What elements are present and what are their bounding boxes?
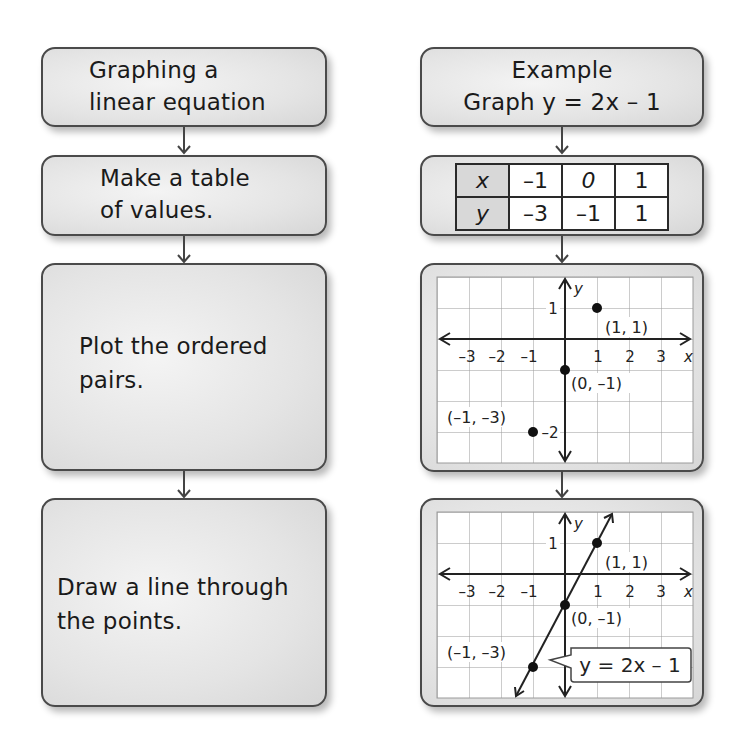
table-row-y: y –3 –1 1 bbox=[456, 197, 668, 230]
table-cell: 0 bbox=[562, 164, 615, 197]
x-tick-neg3: –3 bbox=[458, 348, 475, 366]
x-tick-1: 1 bbox=[593, 348, 603, 366]
step-draw-line2: the points. bbox=[57, 606, 182, 637]
point-1-1 bbox=[592, 303, 602, 313]
step-table-line1: Make a table bbox=[100, 163, 250, 194]
x-tick-2: 2 bbox=[625, 348, 635, 366]
y-axis-label: y bbox=[573, 280, 584, 298]
table-cell: –1 bbox=[509, 164, 562, 197]
x-tick-neg1: –1 bbox=[520, 348, 537, 366]
equation-label: y = 2x – 1 bbox=[579, 653, 680, 677]
arrow-down-icon bbox=[554, 236, 570, 264]
table-cell: 1 bbox=[615, 197, 668, 230]
x-tick-3: 3 bbox=[656, 583, 666, 601]
table-cell: –1 bbox=[562, 197, 615, 230]
arrow-down-icon bbox=[176, 127, 192, 155]
step-box-draw: Draw a line through the points. bbox=[41, 498, 327, 707]
table-row-x: x –1 0 1 bbox=[456, 164, 668, 197]
point-0-neg1 bbox=[560, 365, 570, 375]
coordinate-plane-with-line: 1 2 3 –3 –2 –1 x y 1 (1, 1) (0, –1) (–1,… bbox=[422, 500, 702, 705]
graph-box-line: 1 2 3 –3 –2 –1 x y 1 (1, 1) (0, –1) (–1,… bbox=[420, 498, 704, 707]
y-tick-1: 1 bbox=[548, 535, 558, 553]
y-tick-neg2: –2 bbox=[541, 424, 558, 442]
point-label: (0, –1) bbox=[571, 374, 622, 393]
x-tick-neg2: –2 bbox=[488, 583, 505, 601]
point-neg1-neg3 bbox=[528, 662, 538, 672]
example-box: Example Graph y = 2x – 1 bbox=[420, 47, 704, 127]
point-label: (1, 1) bbox=[605, 318, 648, 337]
arrow-down-icon bbox=[176, 471, 192, 499]
step-box-title: Graphing a linear equation bbox=[41, 47, 327, 127]
example-line1: Example bbox=[422, 55, 702, 86]
point-0-neg1 bbox=[560, 600, 570, 610]
x-tick-3: 3 bbox=[656, 348, 666, 366]
table-cell: –3 bbox=[509, 197, 562, 230]
table-header-y: y bbox=[456, 197, 509, 230]
x-axis-label: x bbox=[683, 348, 693, 366]
example-line2: Graph y = 2x – 1 bbox=[422, 87, 702, 118]
x-tick-neg2: –2 bbox=[488, 348, 505, 366]
step-plot-line2: pairs. bbox=[79, 365, 144, 396]
equation-callout: y = 2x – 1 bbox=[550, 648, 691, 682]
point-neg1-neg3 bbox=[528, 427, 538, 437]
x-tick-2: 2 bbox=[625, 583, 635, 601]
y-tick-1: 1 bbox=[548, 300, 558, 318]
values-table: x –1 0 1 y –3 –1 1 bbox=[455, 163, 669, 231]
y-axis-label: y bbox=[573, 515, 584, 533]
step-plot-line1: Plot the ordered bbox=[79, 331, 268, 362]
table-header-x: x bbox=[456, 164, 509, 197]
step-title-line2: linear equation bbox=[89, 87, 266, 118]
point-label: (1, 1) bbox=[605, 553, 648, 572]
step-draw-line1: Draw a line through bbox=[57, 572, 289, 603]
step-table-line2: of values. bbox=[100, 195, 214, 226]
point-label: (–1, –3) bbox=[447, 643, 506, 662]
step-title-line1: Graphing a bbox=[89, 55, 219, 86]
arrow-down-icon bbox=[176, 236, 192, 264]
x-tick-1: 1 bbox=[593, 583, 603, 601]
x-axis-label: x bbox=[683, 583, 693, 601]
point-1-1 bbox=[592, 538, 602, 548]
x-tick-neg3: –3 bbox=[458, 583, 475, 601]
table-box: x –1 0 1 y –3 –1 1 bbox=[420, 155, 704, 236]
arrow-down-icon bbox=[554, 127, 570, 155]
step-box-plot: Plot the ordered pairs. bbox=[41, 263, 327, 471]
coordinate-plane: 1 2 3 –3 –2 –1 x y 1 –2 (1, 1) (0, –1) (… bbox=[422, 265, 702, 470]
x-tick-neg1: –1 bbox=[520, 583, 537, 601]
table-cell: 1 bbox=[615, 164, 668, 197]
point-label: (–1, –3) bbox=[447, 408, 506, 427]
graph-box-plot: 1 2 3 –3 –2 –1 x y 1 –2 (1, 1) (0, –1) (… bbox=[420, 263, 704, 472]
point-label: (0, –1) bbox=[571, 609, 622, 628]
arrow-down-icon bbox=[554, 471, 570, 499]
step-box-table: Make a table of values. bbox=[41, 155, 327, 236]
